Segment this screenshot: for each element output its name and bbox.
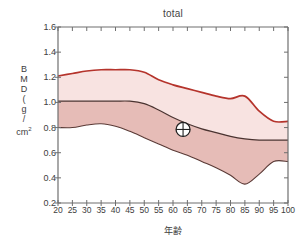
bmd-chart: total B M D ( g / cm2 年齢 0.20.40.60.81.0… [0, 0, 308, 246]
plot-area [0, 0, 308, 246]
patient-marker [176, 122, 190, 136]
